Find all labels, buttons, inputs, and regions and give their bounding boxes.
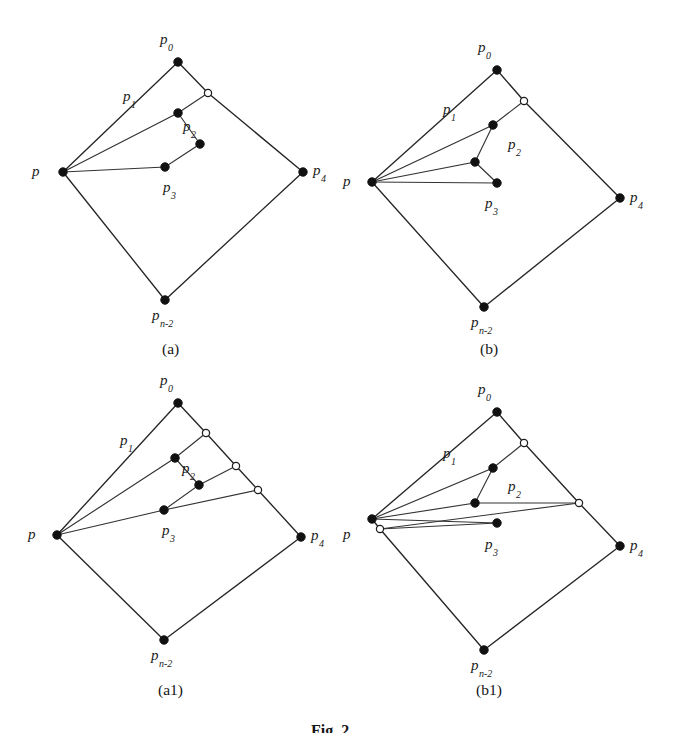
panel-b1-vertex-p bbox=[368, 515, 376, 523]
panel-a-label-p4: p4 bbox=[313, 163, 326, 181]
panel-b1-label-p1-sub: 1 bbox=[451, 456, 456, 467]
panel-b1-label-p4: p4 bbox=[630, 538, 643, 556]
panel-a-geometry bbox=[59, 58, 307, 304]
panel-a1-label-p1-sub: 1 bbox=[128, 443, 133, 454]
panel-b-vertex-p4 bbox=[616, 194, 624, 202]
panel-b-vertex-p2 bbox=[471, 158, 479, 166]
panel-a-label-p: p bbox=[32, 164, 40, 179]
panel-a1-label-p0: p0 bbox=[160, 373, 173, 391]
panel-b1-label-p0: p0 bbox=[478, 382, 491, 400]
panel-b-label-p4-sub: 4 bbox=[638, 200, 643, 211]
figure-geometry-svg bbox=[0, 0, 680, 733]
panel-a1-caption: (a1) bbox=[158, 681, 183, 699]
panel-a1-label-p3-base: p bbox=[162, 522, 170, 538]
panel-b-label-p1: p1 bbox=[443, 102, 456, 120]
panel-b-label-p3-sub: 3 bbox=[493, 206, 498, 217]
panel-a1-label-p1: p1 bbox=[120, 433, 133, 451]
panel-b-vertex-p bbox=[368, 178, 376, 186]
panel-b1-ray-hp-h2 bbox=[380, 503, 579, 529]
panel-b1-label-p2-sub: 2 bbox=[516, 489, 521, 500]
panel-a-label-p3-base: p bbox=[163, 179, 171, 195]
panel-a-vertex-p4 bbox=[299, 168, 307, 176]
panel-a-label-p4-sub: 4 bbox=[321, 173, 326, 184]
panel-b1-label-pn2: pn-2 bbox=[471, 658, 492, 676]
panel-b1-label-pn2-sub: n-2 bbox=[479, 668, 492, 679]
panel-a1-label-p0-sub: 0 bbox=[168, 383, 173, 394]
panel-b-vertex-p1 bbox=[489, 121, 497, 129]
panel-a-boundary-point-h0 bbox=[204, 89, 211, 96]
panel-b1-vertex-p4 bbox=[616, 542, 624, 550]
panel-b-label-p0: p0 bbox=[478, 40, 491, 58]
panel-a-vertex-p3 bbox=[161, 163, 169, 171]
panel-a1-boundary bbox=[57, 403, 301, 640]
panel-b-label-p3-base: p bbox=[485, 195, 493, 211]
panel-b1-label-p: p bbox=[343, 527, 351, 542]
panel-a-vertex-p2 bbox=[196, 140, 204, 148]
panel-b1-boundary bbox=[372, 412, 620, 650]
panel-a1-boundary-point-h2 bbox=[232, 462, 239, 469]
panel-b-boundary-point-h0 bbox=[520, 97, 527, 104]
panel-b1-label-pn2-base: p bbox=[471, 657, 479, 673]
panel-a1-vertex-p3 bbox=[160, 506, 168, 514]
panel-a1-vertex-p bbox=[53, 531, 61, 539]
panel-b-label-p1-base: p bbox=[443, 101, 451, 117]
panel-a1-label-p1-base: p bbox=[120, 432, 128, 448]
panel-b1-vertex-p1 bbox=[489, 464, 497, 472]
panel-a1-ray-p2-h2 bbox=[199, 466, 236, 485]
panel-b-geometry bbox=[368, 66, 624, 311]
panel-a-label-pn2-base: p bbox=[152, 307, 160, 323]
panel-a-label-p2-base: p bbox=[183, 118, 191, 134]
panel-a1-label-p2-base: p bbox=[182, 460, 190, 476]
panel-a-label-p0-base: p bbox=[160, 31, 168, 47]
panel-a1-label-p2-sub: 2 bbox=[190, 471, 195, 482]
panel-b-boundary bbox=[372, 70, 620, 307]
panel-a1-label-p: p bbox=[28, 527, 36, 542]
panel-b1-vertex-pn2 bbox=[480, 646, 488, 654]
panel-b1-label-p4-base: p bbox=[630, 537, 638, 553]
panel-a1-vertex-p2 bbox=[195, 481, 203, 489]
panel-a1-label-p3: p3 bbox=[162, 523, 175, 541]
panel-a1-vertex-p4 bbox=[297, 533, 305, 541]
panel-a1-label-p4-sub: 4 bbox=[319, 538, 324, 549]
panel-a-label-pn2: pn-2 bbox=[152, 308, 173, 326]
panel-a1-label-p4: p4 bbox=[311, 528, 324, 546]
panel-a-label-p1-sub: 1 bbox=[131, 99, 136, 110]
panel-a-vertex-p1 bbox=[174, 109, 182, 117]
panel-b1-label-p0-sub: 0 bbox=[486, 392, 491, 403]
panel-b1-label-p-text: p bbox=[343, 526, 351, 542]
panel-a1-label-p0-base: p bbox=[160, 372, 168, 388]
panel-a1-label-p4-base: p bbox=[311, 527, 319, 543]
panel-b-label-pn2-sub: n-2 bbox=[479, 325, 492, 336]
panel-a-label-p0: p0 bbox=[160, 32, 173, 50]
panel-a-label-p1: p1 bbox=[123, 89, 136, 107]
panel-b-label-p2: p2 bbox=[508, 137, 521, 155]
panel-a1-label-p3-sub: 3 bbox=[170, 533, 175, 544]
figure-root: p p0 p1 p2 p3 p4 pn-2 (a) p p0 p1 p2 p3 … bbox=[0, 0, 680, 733]
panel-a1-label-pn2-sub: n-2 bbox=[159, 658, 172, 669]
panel-b1-label-p3-sub: 3 bbox=[493, 547, 498, 558]
panel-b1-label-p1: p1 bbox=[443, 446, 456, 464]
panel-b1-vertex-p3 bbox=[493, 519, 501, 527]
figure-number: Fig. 2 bbox=[311, 722, 349, 733]
panel-b-label-p3: p3 bbox=[485, 196, 498, 214]
panel-b-label-p-text: p bbox=[343, 173, 351, 189]
panel-a1-vertex-p0 bbox=[174, 399, 182, 407]
panel-a-vertex-p bbox=[59, 168, 67, 176]
panel-b-label-pn2: pn-2 bbox=[471, 315, 492, 333]
panel-a-label-pn2-sub: n-2 bbox=[160, 318, 173, 329]
panel-a1-geometry bbox=[53, 399, 305, 644]
panel-b1-label-p2: p2 bbox=[508, 479, 521, 497]
panel-a1-chain-p3-p2-p1 bbox=[57, 458, 199, 535]
panel-a1-label-p2: p2 bbox=[182, 461, 195, 479]
panel-a-label-p-text: p bbox=[32, 163, 40, 179]
panel-b1-ray-hp-p3 bbox=[380, 523, 497, 529]
panel-b-label-p: p bbox=[343, 174, 351, 189]
panel-a-label-p2: p2 bbox=[183, 119, 196, 137]
panel-b1-boundary-point-hp bbox=[376, 525, 383, 532]
panel-b1-label-p3-base: p bbox=[485, 536, 493, 552]
panel-b-vertex-p0 bbox=[493, 66, 501, 74]
panel-b1-vertex-p0 bbox=[493, 408, 501, 416]
panel-a-label-p2-sub: 2 bbox=[191, 129, 196, 140]
panel-a-vertex-pn2 bbox=[161, 296, 169, 304]
panel-a1-label-p-text: p bbox=[28, 526, 36, 542]
